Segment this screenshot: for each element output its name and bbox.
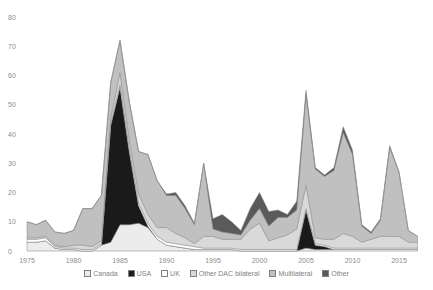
- legend-swatch-other: [322, 270, 329, 277]
- legend-swatch-other-dac-bilateral: [190, 270, 197, 277]
- legend-item-other-dac-bilateral: Other DAC bilateral: [190, 270, 260, 277]
- legend-item-other: Other: [322, 270, 349, 277]
- legend-label: USA: [137, 270, 151, 277]
- legend-item-uk: UK: [161, 270, 180, 277]
- x-tick-label: 1975: [19, 257, 35, 264]
- y-tick-label: 20: [8, 189, 16, 196]
- x-tick-label: 2015: [391, 257, 407, 264]
- x-tick-label: 2010: [345, 257, 361, 264]
- stacked-area-chart: 01020304050607080 1975198019851990199520…: [0, 0, 433, 290]
- legend-item-canada: Canada: [84, 270, 118, 277]
- legend-label: UK: [170, 270, 180, 277]
- x-tick-label: 2000: [252, 257, 268, 264]
- legend: Canada USA UK Other DAC bilateral Multil…: [0, 270, 433, 277]
- legend-label: Canada: [93, 270, 118, 277]
- y-tick-label: 50: [8, 101, 16, 108]
- legend-item-usa: USA: [128, 270, 151, 277]
- legend-item-multilateral: Multilateral: [269, 270, 312, 277]
- x-tick-label: 1985: [112, 257, 128, 264]
- x-tick-label: 1990: [159, 257, 175, 264]
- legend-label: Other: [331, 270, 349, 277]
- y-tick-label: 10: [8, 218, 16, 225]
- legend-label: Multilateral: [278, 270, 312, 277]
- y-tick-label: 30: [8, 160, 16, 167]
- legend-swatch-usa: [128, 270, 135, 277]
- y-tick-label: 60: [8, 72, 16, 79]
- legend-swatch-multilateral: [269, 270, 276, 277]
- y-tick-label: 80: [8, 14, 16, 21]
- plot-area: [27, 40, 418, 251]
- x-tick-label: 2005: [298, 257, 314, 264]
- legend-label: Other DAC bilateral: [199, 270, 260, 277]
- y-tick-label: 70: [8, 43, 16, 50]
- legend-swatch-uk: [161, 270, 168, 277]
- legend-swatch-canada: [84, 270, 91, 277]
- x-axis: 197519801985199019952000200520102015: [19, 257, 407, 264]
- y-axis: 01020304050607080: [8, 14, 16, 255]
- x-tick-label: 1995: [205, 257, 221, 264]
- y-tick-label: 40: [8, 131, 16, 138]
- y-tick-label: 0: [8, 248, 12, 255]
- x-tick-label: 1980: [66, 257, 82, 264]
